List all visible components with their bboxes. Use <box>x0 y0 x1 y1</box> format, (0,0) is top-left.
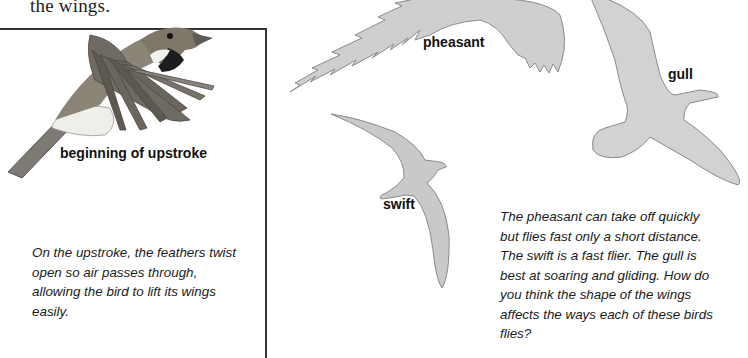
caption-line: On the upstroke, the feathers twist <box>32 243 252 263</box>
wing-shapes-caption: The pheasant can take off quickly but fl… <box>500 207 748 344</box>
caption-line: The swift is a fast flier. The gull is <box>500 246 748 266</box>
upstroke-image-label: beginning of upstroke <box>60 145 207 161</box>
caption-line: allowing the bird to lift its wings <box>32 282 252 302</box>
gull-silhouette <box>591 0 740 185</box>
caption-line: but flies fast only a short distance. <box>500 227 748 247</box>
gull-label: gull <box>668 66 693 82</box>
caption-line: flies? <box>500 324 748 344</box>
caption-line: The pheasant can take off quickly <box>500 207 748 227</box>
upstroke-caption: On the upstroke, the feathers twist open… <box>32 243 252 321</box>
pheasant-label: pheasant <box>423 34 484 50</box>
caption-line: affects the ways each of these birds <box>500 305 748 325</box>
caption-line: you think the shape of the wings <box>500 285 748 305</box>
caption-line: best at soaring and gliding. How do <box>500 266 748 286</box>
swift-label: swift <box>383 196 415 212</box>
caption-line: open so air passes through, <box>32 263 252 283</box>
caption-line: easily. <box>32 302 252 322</box>
